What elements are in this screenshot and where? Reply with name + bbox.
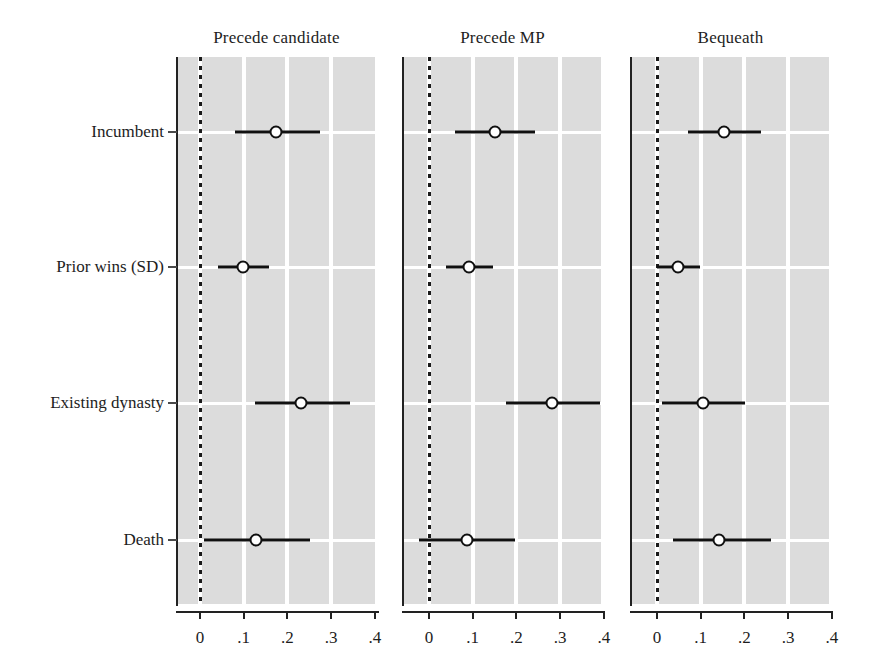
panel-title-3: Bequeath bbox=[632, 28, 829, 48]
x-axis-tick bbox=[199, 611, 201, 619]
point-estimate-marker bbox=[713, 534, 726, 547]
x-axis-tick-label: .1 bbox=[448, 628, 498, 648]
x-axis-tick bbox=[286, 611, 288, 619]
y-axis-tick bbox=[168, 539, 177, 541]
panel-title-1: Precede candidate bbox=[178, 28, 375, 48]
x-axis-tick bbox=[472, 611, 474, 619]
x-axis-tick-label: 0 bbox=[175, 628, 225, 648]
plot-area-panel-2 bbox=[404, 57, 601, 604]
point-estimate-marker bbox=[696, 397, 709, 410]
gridline-horizontal bbox=[178, 266, 375, 269]
gridline-vertical bbox=[285, 57, 289, 604]
panel-title-2: Precede MP bbox=[404, 28, 601, 48]
x-axis-tick bbox=[787, 611, 789, 619]
y-axis-line bbox=[176, 57, 178, 606]
x-axis-tick bbox=[330, 611, 332, 619]
x-axis-tick-label: .4 bbox=[579, 628, 629, 648]
x-axis-line bbox=[630, 611, 833, 613]
x-axis-tick-label: .2 bbox=[719, 628, 769, 648]
y-axis-category-label-2: Prior wins (SD) bbox=[56, 257, 164, 277]
forest-plot-figure: Precede candidatePrecede MPBequeath 0.1.… bbox=[0, 0, 875, 671]
gridline-vertical bbox=[742, 57, 746, 604]
x-axis-tick-label: .2 bbox=[491, 628, 541, 648]
zero-reference-line bbox=[428, 57, 431, 604]
point-estimate-marker bbox=[294, 397, 307, 410]
gridline-vertical bbox=[514, 57, 518, 604]
x-axis-tick bbox=[374, 611, 376, 619]
x-axis-tick bbox=[559, 611, 561, 619]
x-axis-tick-label: .3 bbox=[535, 628, 585, 648]
point-estimate-marker bbox=[717, 126, 730, 139]
point-estimate-marker bbox=[671, 261, 684, 274]
point-estimate-marker bbox=[488, 126, 501, 139]
y-axis-line bbox=[630, 57, 632, 606]
gridline-vertical bbox=[471, 57, 475, 604]
y-axis-tick bbox=[168, 402, 177, 404]
gridline-horizontal bbox=[404, 266, 601, 269]
point-estimate-marker bbox=[236, 261, 249, 274]
x-axis-tick-label: .1 bbox=[676, 628, 726, 648]
gridline-vertical bbox=[558, 57, 562, 604]
point-estimate-marker bbox=[463, 261, 476, 274]
y-axis-category-label-3: Existing dynasty bbox=[50, 393, 164, 413]
x-axis-tick bbox=[656, 611, 658, 619]
x-axis-tick-label: .3 bbox=[763, 628, 813, 648]
point-estimate-marker bbox=[545, 397, 558, 410]
y-axis-category-label-4: Death bbox=[123, 530, 164, 550]
x-axis-tick-label: .2 bbox=[262, 628, 312, 648]
gridline-vertical bbox=[242, 57, 246, 604]
x-axis-tick bbox=[603, 611, 605, 619]
x-axis-tick bbox=[831, 611, 833, 619]
plot-area-panel-3 bbox=[632, 57, 829, 604]
x-axis-tick-label: 0 bbox=[404, 628, 454, 648]
y-axis-tick bbox=[168, 266, 177, 268]
x-axis-tick-label: .4 bbox=[350, 628, 400, 648]
zero-reference-line bbox=[656, 57, 659, 604]
x-axis-tick bbox=[700, 611, 702, 619]
x-axis-tick-label: 0 bbox=[632, 628, 682, 648]
plot-area-panel-1 bbox=[178, 57, 375, 604]
x-axis-tick bbox=[515, 611, 517, 619]
y-axis-line bbox=[402, 57, 404, 606]
zero-reference-line bbox=[199, 57, 202, 604]
gridline-vertical bbox=[786, 57, 790, 604]
gridline-vertical bbox=[329, 57, 333, 604]
x-axis-tick bbox=[243, 611, 245, 619]
y-axis-category-label-1: Incumbent bbox=[91, 122, 164, 142]
x-axis-tick bbox=[428, 611, 430, 619]
x-axis-tick bbox=[743, 611, 745, 619]
x-axis-line bbox=[402, 611, 605, 613]
gridline-vertical bbox=[699, 57, 703, 604]
point-estimate-marker bbox=[461, 534, 474, 547]
x-axis-tick-label: .1 bbox=[219, 628, 269, 648]
point-estimate-marker bbox=[249, 534, 262, 547]
point-estimate-marker bbox=[270, 126, 283, 139]
x-axis-line bbox=[176, 611, 379, 613]
x-axis-tick-label: .4 bbox=[807, 628, 857, 648]
y-axis-tick bbox=[168, 131, 177, 133]
x-axis-tick-label: .3 bbox=[306, 628, 356, 648]
